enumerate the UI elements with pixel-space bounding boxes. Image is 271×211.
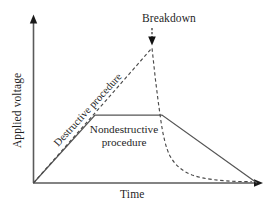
breakdown-arrow-icon — [148, 37, 156, 46]
breakdown-label: Breakdown — [142, 12, 196, 25]
plot-canvas — [0, 0, 271, 211]
nondestructive-label-line1: Nondestructive — [90, 123, 158, 135]
nondestructive-label-line2: procedure — [81, 136, 167, 149]
x-axis-label: Time — [120, 188, 145, 201]
nondestructive-procedure-label: Nondestructiveprocedure — [81, 123, 167, 148]
x-axis-arrowhead — [254, 179, 263, 186]
y-axis-label: Applied voltage — [11, 56, 24, 164]
voltage-time-figure: Breakdown Applied voltage Time Destructi… — [0, 0, 271, 211]
y-axis-arrowhead — [30, 15, 37, 24]
